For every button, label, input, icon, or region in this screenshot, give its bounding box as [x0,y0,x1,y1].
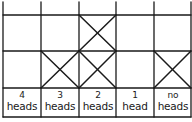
column-label-4-heads: 4 heads [3,88,41,117]
label-word: head [116,101,154,112]
column-label-1-head: 1 head [116,88,154,117]
label-word: heads [154,101,192,112]
label-number: 2 [79,91,117,100]
column-label-3-heads: 3 heads [41,88,79,117]
label-word: heads [79,101,117,112]
label-number: 4 [3,91,41,100]
label-word: heads [3,101,41,112]
label-word: heads [41,101,79,112]
column-label-2-heads: 2 heads [79,88,117,117]
label-number: 3 [41,91,79,100]
column-label-no-heads: no heads [154,88,192,117]
label-number: 1 [116,91,154,100]
label-number: no [154,91,192,100]
